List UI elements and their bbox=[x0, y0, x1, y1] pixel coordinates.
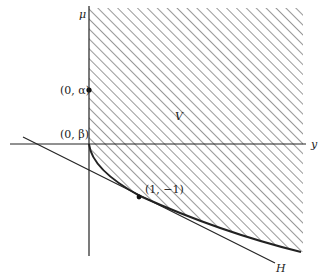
line-h-label: H bbox=[275, 262, 286, 275]
point-0-beta-label: (0, β) bbox=[60, 128, 89, 141]
hatched-region-v bbox=[89, 8, 303, 258]
region-v-label: V bbox=[175, 110, 184, 123]
vertical-axis-label: μ bbox=[79, 8, 86, 21]
point-1-minus-1 bbox=[137, 195, 142, 200]
point-1-minus-1-label: (1, −1) bbox=[145, 183, 184, 196]
horizontal-axis-label: y bbox=[310, 138, 318, 151]
point-0-alpha-label: (0, α) bbox=[60, 84, 90, 97]
convex-region-diagram: μ y (0, α) (0, β) (1, −1) V H bbox=[0, 0, 323, 275]
